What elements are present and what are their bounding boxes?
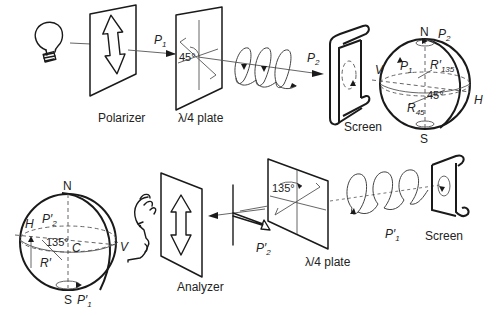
sphere-bottom-north-label: N <box>63 179 72 193</box>
circular-polarization-helix-bottom: P′1 <box>347 170 428 243</box>
screen-bottom: Screen <box>425 155 469 243</box>
angle-label-45: 45° <box>179 51 196 63</box>
sphere-top-r45-label: R45 <box>407 101 425 117</box>
analyzer-label: Analyzer <box>177 280 224 294</box>
beam-line <box>70 43 91 44</box>
sphere-top-v-label: V <box>375 63 384 77</box>
sphere-top-p1-label: P1 <box>400 59 412 75</box>
screen-top: Screen <box>330 26 382 134</box>
sphere-top-north-label: N <box>420 25 429 39</box>
polarization-diagram: Polarizer P1 45° λ/4 plate P2 <box>0 0 496 316</box>
sphere-bottom-p2prime-label: P′2 <box>42 212 57 228</box>
arrow-head-icon <box>208 212 218 219</box>
sphere-bottom-v-label: V <box>120 240 129 254</box>
top-row: Polarizer P1 45° λ/4 plate P2 <box>35 5 483 146</box>
sphere-top-r135-label: R′135 <box>430 58 455 74</box>
sphere-bottom-p1prime-label: P′1 <box>77 293 92 309</box>
qwp-top-label: λ/4 plate <box>178 111 224 125</box>
sphere-top-south-label: S <box>420 132 428 146</box>
observer-face-icon <box>128 194 156 262</box>
screen-top-label: Screen <box>344 120 382 134</box>
qwp-bottom-label: λ/4 plate <box>305 255 351 269</box>
polarizer-label: Polarizer <box>98 111 145 125</box>
hollow-arrow-icon <box>233 213 270 230</box>
bottom-row: N S H V C P′2 P′1 R′ 135° Analyzer <box>15 155 469 309</box>
label-p2-beam: P2 <box>307 51 320 67</box>
sphere-bottom-rprime-label: R′ <box>40 256 52 270</box>
poincare-sphere-top: N S V H P2 P1 R′135 R45 45° <box>372 25 483 146</box>
label-p2prime-beam: P′2 <box>256 241 271 257</box>
circular-polarization-helix <box>235 48 297 89</box>
sphere-bottom-h-label: H <box>25 217 34 231</box>
sphere-top-h-label: H <box>474 93 483 107</box>
label-p1: P1 <box>154 33 166 49</box>
sphere-bottom-south-label: S <box>64 293 72 307</box>
label-p1prime-beam: P′1 <box>385 227 400 243</box>
quarter-wave-plate-bottom: 135° λ/4 plate <box>268 159 351 269</box>
beam-line <box>218 209 265 215</box>
arrow-head-icon <box>166 50 176 57</box>
light-bulb-icon <box>35 22 62 62</box>
angle-label-135: 135° <box>272 182 295 194</box>
sphere-top-p2-label: P2 <box>438 27 451 43</box>
sphere-bottom-c-label: C <box>72 241 81 255</box>
sphere-top-angle-label: 45° <box>427 89 444 101</box>
polarizer: Polarizer <box>90 5 145 125</box>
sphere-bottom-angle-label: 135° <box>46 236 69 248</box>
screen-bottom-label: Screen <box>425 229 463 243</box>
arrow-head-icon <box>312 70 324 77</box>
analyzer: Analyzer <box>161 173 224 294</box>
quarter-wave-plate-top: 45° λ/4 plate <box>176 7 224 125</box>
poincare-sphere-bottom: N S H V C P′2 P′1 R′ 135° <box>15 179 129 309</box>
